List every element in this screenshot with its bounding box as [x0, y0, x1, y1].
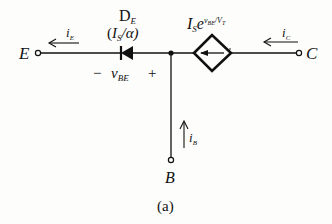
vbe-plus-label: +: [148, 66, 156, 81]
source-expression-label: ISevBE/VT: [187, 16, 225, 32]
vbe-minus-label: −: [93, 66, 101, 81]
bjt-large-signal-model-diagram: E C B iE iC iB DE (IS/α) − + vBE ISevBE/…: [0, 0, 332, 224]
base-terminal-icon: [168, 157, 173, 162]
diode-icon: [121, 46, 133, 60]
collector-label: C: [306, 45, 317, 62]
emitter-terminal-icon: [35, 50, 40, 55]
current-arrow-ic-icon: [264, 38, 298, 46]
diode-name-label: DE: [119, 8, 136, 24]
diode-parameter-label: (IS/α): [107, 26, 139, 41]
vbe-label: vBE: [111, 66, 129, 81]
current-arrow-ie-icon: [49, 39, 79, 47]
emitter-label: E: [19, 45, 29, 62]
collector-terminal-icon: [296, 50, 301, 55]
current-label-ic: iC: [282, 26, 290, 39]
base-label: B: [165, 170, 175, 186]
current-label-ie: iE: [66, 26, 74, 39]
current-label-ib: iB: [189, 131, 197, 144]
figure-caption: (a): [157, 199, 174, 214]
dependent-current-source-icon: [194, 35, 231, 71]
current-arrow-ib-icon: [180, 121, 188, 148]
